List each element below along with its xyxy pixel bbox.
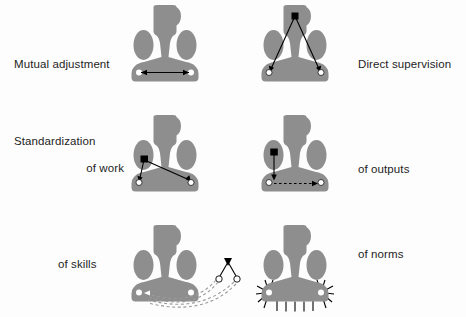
- org-body: [132, 5, 199, 82]
- label-direct-supervision: Direct supervision: [358, 58, 451, 71]
- label-standardization-of-outputs: of outputs: [358, 163, 410, 176]
- org-shape-standardization-of-work: [126, 114, 204, 202]
- coordinating-mechanisms-figure: Mutual adjustment: [0, 0, 466, 317]
- label-standardization-of-work: Standardization of work: [14, 135, 124, 175]
- label-mutual-adjustment: Mutual adjustment: [14, 58, 110, 71]
- label-line-1: Standardization: [14, 135, 95, 147]
- org-shape-standardization-of-norms: [256, 224, 348, 316]
- org-shape-mutual-adjustment: [126, 4, 204, 92]
- label-line-2: of work: [14, 162, 124, 175]
- org-shape-standardization-of-outputs: [256, 114, 334, 202]
- label-standardization-of-norms: of norms: [358, 248, 404, 261]
- org-body: [132, 225, 199, 302]
- label-standardization-of-skills: of skills: [58, 258, 97, 271]
- external-training-unit: [216, 258, 240, 282]
- org-shape-direct-supervision: [256, 4, 334, 92]
- org-shape-standardization-of-skills: [126, 224, 246, 316]
- org-body: [262, 225, 329, 302]
